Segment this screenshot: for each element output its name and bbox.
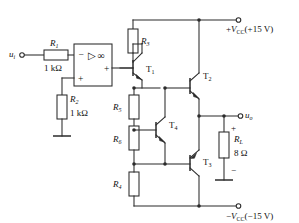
output-branch bbox=[199, 114, 243, 180]
resistor-r6-label: R6 bbox=[112, 134, 122, 145]
op-amp-inverting-symbol: − bbox=[79, 50, 84, 60]
transistor-t2 bbox=[165, 20, 199, 116]
vcc-negative-label: −VCC(−15 V) bbox=[226, 211, 273, 222]
transistor-t2-label: T2 bbox=[203, 71, 212, 82]
resistor-r2-body bbox=[57, 95, 67, 119]
resistor-r3-label: R3 bbox=[140, 36, 150, 47]
op-amp-infinity-icon: ∞ bbox=[98, 50, 105, 61]
t1-emitter-arrow-icon bbox=[136, 75, 142, 80]
node-t4-emitter bbox=[163, 162, 167, 166]
op-amp-output-plus-symbol: + bbox=[104, 64, 109, 74]
t2-emitter-arrow-icon bbox=[193, 93, 199, 99]
resistor-r5-body bbox=[129, 95, 139, 119]
t4-emitter-arrow-icon bbox=[159, 137, 165, 143]
vcc-positive-terminal bbox=[236, 18, 241, 23]
resistor-r5-label: R5 bbox=[112, 102, 122, 113]
resistor-r2-value: 1 kΩ bbox=[70, 108, 88, 118]
circuit-diagram: − ▷ ∞ + + bbox=[0, 0, 299, 223]
resistor-rl-body bbox=[219, 132, 229, 158]
t3-emitter-arrow-icon bbox=[191, 153, 197, 158]
resistor-r7-label: R4 bbox=[112, 179, 122, 190]
input-source-label: ui bbox=[9, 49, 16, 60]
op-amp-noninverting-symbol: + bbox=[78, 74, 83, 84]
node-t1-emitter bbox=[132, 86, 136, 90]
resistor-r1-label: R1 bbox=[49, 38, 59, 49]
node-vcc-pos bbox=[197, 18, 201, 22]
node-vcc-neg bbox=[197, 204, 201, 208]
schematic-canvas: − ▷ ∞ + + bbox=[0, 0, 299, 223]
resistor-r1-value: 1 kΩ bbox=[44, 63, 62, 73]
node-t2-base bbox=[163, 86, 167, 90]
transistor-t4-label: T4 bbox=[169, 120, 178, 131]
node-t3-base bbox=[132, 162, 136, 166]
node-load bbox=[222, 114, 226, 118]
resistor-r2-branch bbox=[53, 95, 71, 136]
vcc-negative-terminal bbox=[236, 204, 241, 209]
positive-supply-rail bbox=[133, 18, 241, 23]
node-r5-r6 bbox=[132, 128, 136, 132]
resistor-rl-value: 8 Ω bbox=[234, 148, 248, 158]
node-output bbox=[197, 114, 201, 118]
bias-chain-wires bbox=[129, 88, 160, 206]
resistor-r3-branch bbox=[128, 20, 138, 62]
op-amp: − ▷ ∞ + + bbox=[62, 44, 133, 95]
negative-supply-rail bbox=[134, 204, 241, 209]
output-label: uo bbox=[245, 110, 253, 121]
resistor-r1-body bbox=[44, 50, 68, 60]
resistor-r2-label: R2 bbox=[69, 94, 79, 105]
op-amp-triangle-icon: ▷ bbox=[88, 50, 96, 61]
vcc-positive-label: +VCC(+15 V) bbox=[226, 24, 273, 35]
output-plus-mark: + bbox=[231, 123, 236, 133]
output-minus-mark: − bbox=[231, 165, 236, 175]
transistor-t1-label: T1 bbox=[146, 64, 155, 75]
input-terminal bbox=[20, 53, 25, 58]
transistor-t3-label: T3 bbox=[203, 157, 212, 168]
output-terminal bbox=[238, 114, 243, 119]
resistor-rl-label: RL bbox=[233, 134, 244, 145]
resistor-r7-body bbox=[129, 172, 139, 196]
